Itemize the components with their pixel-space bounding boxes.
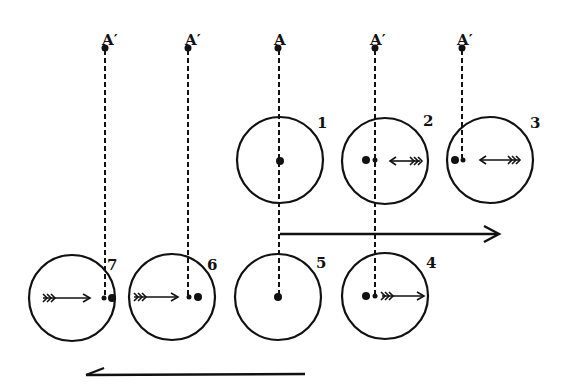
circle-4 xyxy=(342,253,428,339)
circle-label-6: 6 xyxy=(207,256,217,274)
circle-label-4: 4 xyxy=(426,254,436,272)
circle-label-2: 2 xyxy=(423,112,433,130)
circle-label-5: 5 xyxy=(316,254,326,272)
circle-label-3: 3 xyxy=(530,114,540,132)
circle-6 xyxy=(129,254,215,340)
circle-label-1: 1 xyxy=(317,114,327,132)
circle-2 xyxy=(342,118,428,204)
arrow-right-icon xyxy=(280,226,499,242)
circle-label-7: 7 xyxy=(107,256,117,274)
circle-7 xyxy=(29,255,116,341)
arrow-left-icon xyxy=(86,368,305,375)
circle-3 xyxy=(447,117,533,203)
circle-motion-diagram: A′ A′ A A′ A′ 1 2 3 xyxy=(0,0,567,389)
